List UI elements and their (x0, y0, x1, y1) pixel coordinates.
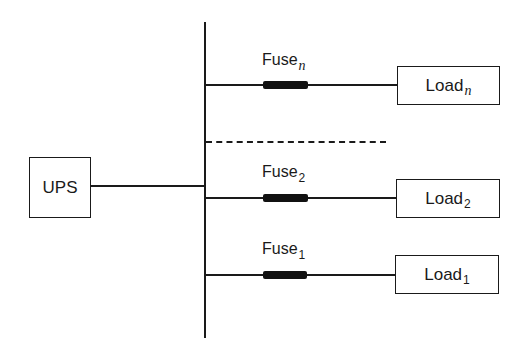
main-bus (204, 22, 206, 338)
omitted-branches-dashed-line (206, 141, 386, 145)
fuse-n-label: Fusen (262, 51, 306, 69)
load-2-box: Load2 (396, 179, 500, 218)
fuse-n-icon (263, 81, 308, 89)
ups-label: UPS (43, 178, 78, 198)
fuse-1-label: Fuse1 (262, 240, 305, 258)
fuse-2-label: Fuse2 (262, 163, 305, 181)
fuse-1-icon (263, 271, 307, 279)
ups-distribution-diagram: UPS Fusen Loadn Fuse2 Load2 Fuse1 Load1 (0, 0, 528, 350)
fuse-2-icon (263, 194, 308, 202)
ups-box: UPS (29, 157, 91, 218)
load-1-box: Load1 (395, 255, 499, 294)
ups-feeder-line (90, 185, 205, 187)
load-n-box: Loadn (397, 66, 500, 105)
